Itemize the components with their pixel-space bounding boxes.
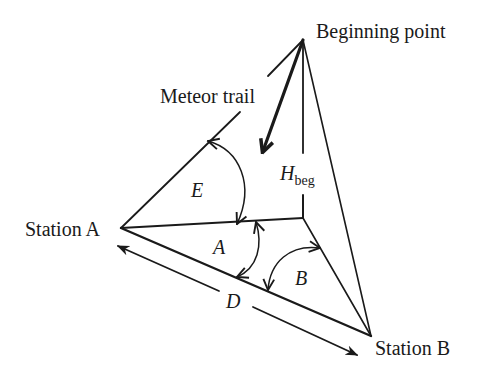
label-meteor-trail: Meteor trail [160, 85, 255, 107]
label-height-sub: beg [294, 173, 314, 188]
line-station-a-to-foot [121, 218, 303, 228]
label-distance-d: D [225, 290, 241, 312]
label-angle-a: A [211, 236, 226, 258]
meteor-triangulation-diagram: Beginning point Meteor trail Station A S… [0, 0, 488, 380]
distance-arrow-left [118, 246, 219, 291]
label-angle-b: B [295, 267, 307, 289]
label-station-a: Station A [25, 218, 101, 240]
line-beginning-to-station-b [303, 40, 371, 336]
label-height-main: H [279, 162, 296, 184]
angle-e-arc [208, 141, 245, 224]
label-height-beg: Hbeg [279, 162, 315, 188]
baseline-a-to-b [121, 228, 371, 336]
meteor-trail-lower-segment [121, 112, 240, 228]
distance-arrow-right [253, 307, 357, 355]
label-angle-e: E [190, 179, 203, 201]
line-foot-to-station-b [303, 218, 371, 336]
meteor-direction-arrow [263, 40, 303, 151]
angle-a-arc [237, 222, 259, 277]
label-station-b: Station B [375, 337, 450, 359]
label-beginning-point: Beginning point [316, 20, 446, 43]
angle-b-arc [268, 247, 320, 290]
